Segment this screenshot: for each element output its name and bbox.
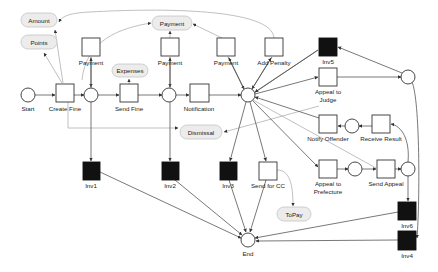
transition-payment-2[interactable] bbox=[161, 38, 179, 56]
label-appeal-to-judge-1: Appeal to bbox=[315, 88, 342, 95]
transition-notification[interactable] bbox=[190, 84, 209, 102]
label-points: Points bbox=[30, 39, 47, 46]
transition-add-penalty[interactable] bbox=[265, 38, 283, 56]
label-appeal-to-judge-2: Judge bbox=[320, 96, 337, 103]
transition-notify-offender[interactable] bbox=[319, 115, 337, 133]
label-appeal-to-prefecture-1: Appeal to bbox=[315, 180, 342, 187]
transition-inv2[interactable] bbox=[162, 162, 179, 180]
transition-send-appeal[interactable] bbox=[377, 160, 395, 178]
label-send-for-cc: Send for CC bbox=[251, 182, 286, 189]
label-payment-1: Payment bbox=[79, 59, 104, 66]
label-payment-2: Payment bbox=[158, 59, 183, 66]
transition-create-fine[interactable] bbox=[56, 84, 74, 102]
label-inv1: Inv1 bbox=[85, 182, 97, 189]
place-p1[interactable] bbox=[84, 88, 98, 102]
place-result[interactable] bbox=[345, 119, 359, 133]
label-inv6: Inv6 bbox=[401, 222, 413, 229]
place-start[interactable] bbox=[21, 88, 35, 102]
label-inv5: Inv5 bbox=[322, 58, 334, 65]
label-expenses: Expenses bbox=[116, 67, 143, 74]
label-send-appeal: Send Appeal bbox=[368, 180, 403, 187]
label-notification: Notification bbox=[184, 105, 215, 112]
places bbox=[21, 70, 415, 247]
place-central[interactable] bbox=[241, 88, 255, 102]
transition-appeal-to-prefecture[interactable] bbox=[319, 160, 337, 178]
label-appeal-to-prefecture-2: Prefecture bbox=[314, 188, 343, 195]
label-receive-result: Receive Result bbox=[360, 135, 402, 142]
petri-net-diagram: Start End Create Fine Send Fine Notifica… bbox=[0, 0, 438, 272]
transition-inv5[interactable] bbox=[319, 38, 337, 56]
label-start: Start bbox=[21, 105, 34, 112]
transition-payment-3[interactable] bbox=[217, 38, 235, 56]
place-end[interactable] bbox=[241, 233, 255, 247]
label-end: End bbox=[242, 250, 254, 257]
transition-inv3[interactable] bbox=[220, 162, 237, 180]
label-notify-offender: Notify Offender bbox=[307, 135, 349, 142]
transition-inv6[interactable] bbox=[398, 202, 416, 220]
place-send-appeal[interactable] bbox=[401, 162, 415, 176]
label-create-fine: Create Fine bbox=[49, 105, 82, 112]
label-inv4: Inv4 bbox=[401, 252, 413, 259]
petri-net-canvas: Start End Create Fine Send Fine Notifica… bbox=[0, 0, 438, 272]
label-payment-3: Payment bbox=[214, 59, 239, 66]
transition-inv1[interactable] bbox=[83, 162, 100, 180]
place-prefecture[interactable] bbox=[348, 162, 362, 176]
transition-send-for-cc[interactable] bbox=[259, 162, 277, 180]
label-inv3: Inv3 bbox=[222, 182, 234, 189]
label-send-fine: Send Fine bbox=[115, 105, 144, 112]
label-amount: Amount bbox=[28, 17, 50, 24]
transition-payment-1[interactable] bbox=[82, 38, 100, 56]
transition-inv4[interactable] bbox=[398, 231, 416, 250]
transition-receive-result[interactable] bbox=[372, 115, 390, 133]
control-edges bbox=[35, 47, 419, 241]
place-judge[interactable] bbox=[401, 70, 415, 84]
label-payment-data: Payment bbox=[160, 20, 185, 27]
label-dismissal: Dismissal bbox=[188, 129, 214, 136]
label-add-penalty: Add Penalty bbox=[257, 59, 291, 66]
transition-appeal-to-judge[interactable] bbox=[319, 68, 337, 86]
label-topay: ToPay bbox=[285, 211, 303, 218]
transition-send-fine[interactable] bbox=[120, 84, 138, 102]
place-p2[interactable] bbox=[162, 88, 176, 102]
label-inv2: Inv2 bbox=[164, 182, 176, 189]
